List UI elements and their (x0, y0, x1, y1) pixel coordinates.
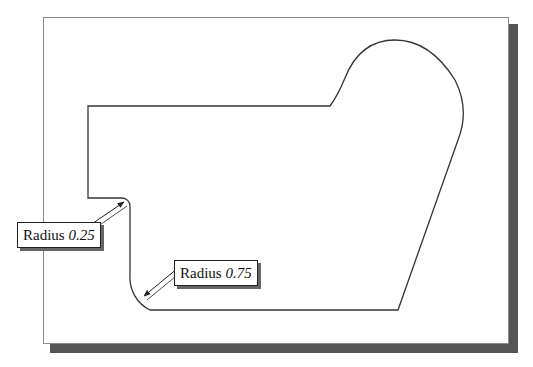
radius-callout-0.25: Radius 0.25 (17, 222, 101, 248)
callout-label: Radius (23, 227, 65, 243)
part-outline (0, 0, 533, 367)
part-profile (88, 40, 463, 310)
callout-value: 0.25 (68, 227, 94, 243)
radius-callout-0.75: Radius 0.75 (174, 260, 258, 286)
callout-value: 0.75 (225, 265, 251, 281)
callout-label: Radius (180, 265, 222, 281)
